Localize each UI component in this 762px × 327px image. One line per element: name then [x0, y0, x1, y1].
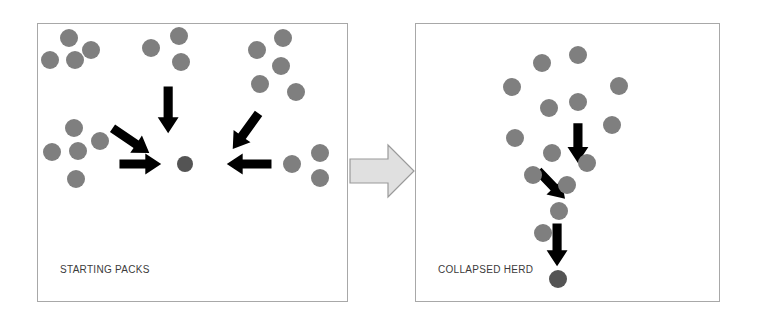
herd-dot: [540, 99, 558, 117]
herd-dot: [569, 93, 587, 111]
herd-dot: [603, 116, 621, 134]
herd-dot: [534, 224, 552, 242]
pack-dot: [142, 39, 160, 57]
starting-packs-panel: STARTING PACKS: [37, 23, 348, 302]
pack-dot: [248, 41, 266, 59]
pack-dot: [172, 53, 190, 71]
pack-dot: [287, 83, 305, 101]
herd-dot: [543, 144, 561, 162]
herd-dot: [558, 176, 576, 194]
herd-dot: [550, 202, 568, 220]
pack-dot: [311, 169, 329, 187]
herd-dot: [569, 46, 587, 64]
arrow-right: [227, 154, 272, 175]
pack-dot: [60, 29, 78, 47]
collapsed-herd-arrow-layer: [416, 24, 719, 301]
herd-dot: [533, 54, 551, 72]
pack-dot: [82, 41, 100, 59]
convergence-point-dot: [177, 156, 193, 172]
herd-dot: [503, 78, 521, 96]
collapsed-herd-label: COLLAPSED HERD: [438, 264, 533, 275]
arrow-top-middle: [158, 87, 179, 134]
herd-dot: [578, 154, 596, 172]
pack-dot: [65, 119, 83, 137]
pack-dot: [41, 51, 59, 69]
pack-dot: [283, 155, 301, 173]
arrow-top-right: [233, 111, 263, 149]
herd-dot: [524, 166, 542, 184]
pack-dot: [170, 27, 188, 45]
herd-dot: [506, 129, 524, 147]
starting-packs-label: STARTING PACKS: [60, 264, 150, 275]
pack-dot: [272, 57, 290, 75]
arrow-top-left: [110, 124, 149, 153]
pack-dot: [43, 143, 61, 161]
pack-dot: [91, 132, 109, 150]
transition-arrow: [348, 140, 416, 202]
transition-arrow-shape: [350, 145, 414, 197]
pack-dot: [274, 29, 292, 47]
herd-dot: [610, 77, 628, 95]
lead-dot: [549, 270, 567, 288]
pack-dot: [311, 144, 329, 162]
pack-dot: [67, 170, 85, 188]
arrow-left: [119, 154, 161, 175]
pack-dot: [69, 142, 87, 160]
figure-canvas: STARTING PACKS COLLAPSED HERD: [0, 0, 762, 327]
pack-dot: [66, 51, 84, 69]
pack-dot: [251, 75, 269, 93]
collapsed-herd-panel: COLLAPSED HERD: [415, 23, 720, 302]
